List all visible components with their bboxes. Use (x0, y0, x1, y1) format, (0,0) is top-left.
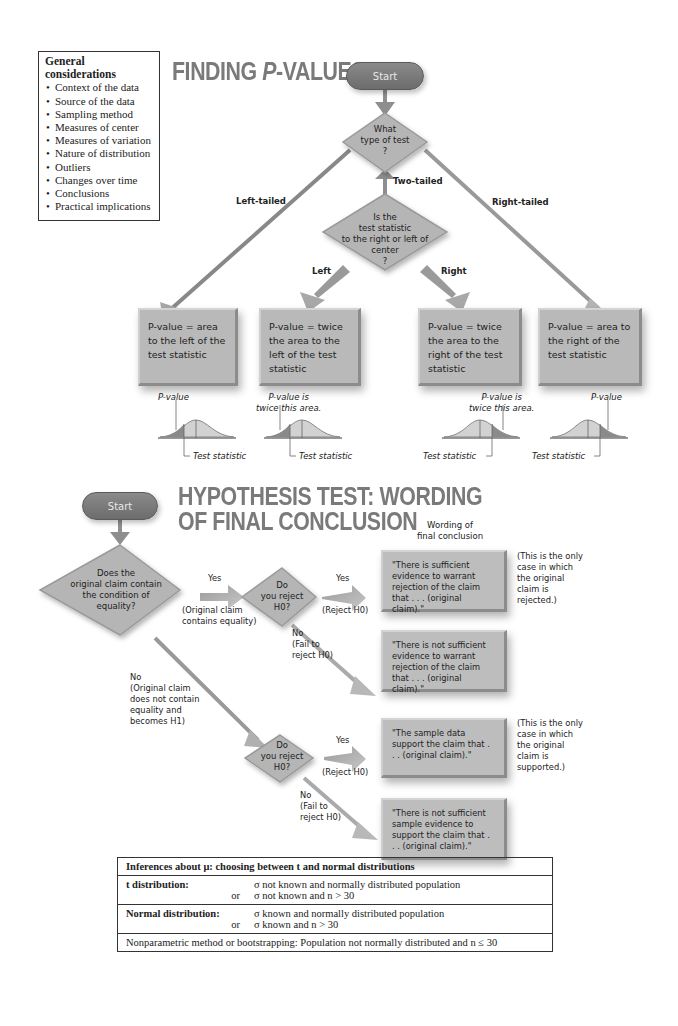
twice-area-label-left: P-value istwice this area. (256, 392, 321, 413)
inference-table: Inferences about μ: choosing between t a… (117, 857, 553, 952)
curve-left-tailed (158, 400, 236, 452)
reject-h0-question-2: Doyou rejectH0? (250, 740, 314, 773)
hypothesis-start-node: Start (82, 492, 158, 520)
two-tailed-label: Two-tailed (393, 176, 443, 187)
list-item: Sampling method (55, 108, 153, 121)
pvalues-title: FINDING P-VALUES (172, 56, 365, 87)
pvalue-box-two-tailed-right: P-value = twice the area to the right of… (418, 308, 522, 386)
reject-h0-question-1: Doyou rejectH0? (250, 580, 314, 613)
test-statistic-label: Test statistic (193, 451, 246, 462)
general-considerations-list: Context of the data Source of the data S… (45, 81, 153, 213)
reference-page: General considerations Context of the da… (0, 0, 678, 1026)
reject-h0-label: (Reject H0) (322, 605, 368, 616)
curve-right-tailed (550, 400, 628, 452)
pvalue-label: P-value (158, 392, 189, 403)
no-equality-note: No(Original claimdoes not containequalit… (130, 672, 199, 727)
twice-area-label-right: P-value istwice this area. (469, 392, 534, 413)
pvalue-label: P-value (591, 392, 622, 403)
yes-label: Yes (336, 573, 349, 584)
fail-to-reject-note: No(Fail toreject H0) (300, 790, 341, 823)
left-tailed-label: Left-tailed (236, 196, 286, 207)
yes-label: Yes (336, 735, 349, 746)
left-label: Left (312, 266, 331, 277)
list-item: Source of the data (55, 95, 153, 108)
pvalue-box-left-tailed: P-value = area to the left of the test s… (138, 308, 238, 386)
list-item: Context of the data (55, 81, 153, 94)
fail-to-reject-note: No(Fail toreject H0) (292, 628, 333, 661)
conclusion-box-support-claim: "The sample data support the claim that … (381, 718, 507, 778)
yes-label: Yes (208, 573, 221, 584)
right-or-left-question: Is thetest statisticto the right or left… (320, 212, 450, 267)
pvalue-box-two-tailed-left: P-value = twice the area to the left of … (259, 308, 361, 386)
list-item: Nature of distribution (55, 147, 153, 160)
list-item: Measures of variation (55, 134, 153, 147)
general-considerations-box: General considerations Context of the da… (38, 51, 160, 221)
reject-h0-label: (Reject H0) (322, 767, 368, 778)
conclusion-box-reject-claim: "There is sufficient evidence to warrant… (381, 550, 507, 612)
table-row-t-distribution: t distribution:σ not known and normally … (118, 875, 552, 904)
test-statistic-label: Test statistic (532, 451, 585, 462)
original-contains-equality-note: (Original claimcontains equality) (182, 605, 256, 627)
equality-question: Does theoriginal claim containthe condit… (54, 568, 178, 612)
pvalue-box-right-tailed: P-value = area to the right of the test … (538, 308, 642, 386)
rejected-case-note: (This is the only case in which the orig… (517, 551, 587, 606)
table-row-normal-distribution: Normal distribution:σ known and normally… (118, 904, 552, 933)
right-tailed-label: Right-tailed (492, 197, 549, 208)
type-of-test-question: Whattype of test? (345, 124, 425, 157)
pvalues-start-node: Start (346, 62, 424, 90)
supported-case-note: (This is the only case in which the orig… (517, 718, 587, 773)
list-item: Outliers (55, 161, 153, 174)
conclusion-box-not-support-claim: "There is not sufficient sample evidence… (381, 798, 507, 860)
wording-header: Wording offinal conclusion (405, 520, 495, 541)
conclusion-box-not-reject-claim: "There is not sufficient evidence to war… (381, 630, 507, 692)
test-statistic-label: Test statistic (299, 451, 352, 462)
list-item: Practical implications (55, 200, 153, 213)
inference-table-title: Inferences about μ: choosing between t a… (118, 858, 552, 875)
test-statistic-label: Test statistic (423, 451, 476, 462)
general-considerations-title: General considerations (45, 55, 153, 81)
right-label: Right (441, 266, 467, 277)
list-item: Conclusions (55, 187, 153, 200)
table-row-nonparametric: Nonparametric method or bootstrapping: P… (118, 933, 552, 951)
list-item: Measures of center (55, 121, 153, 134)
list-item: Changes over time (55, 174, 153, 187)
